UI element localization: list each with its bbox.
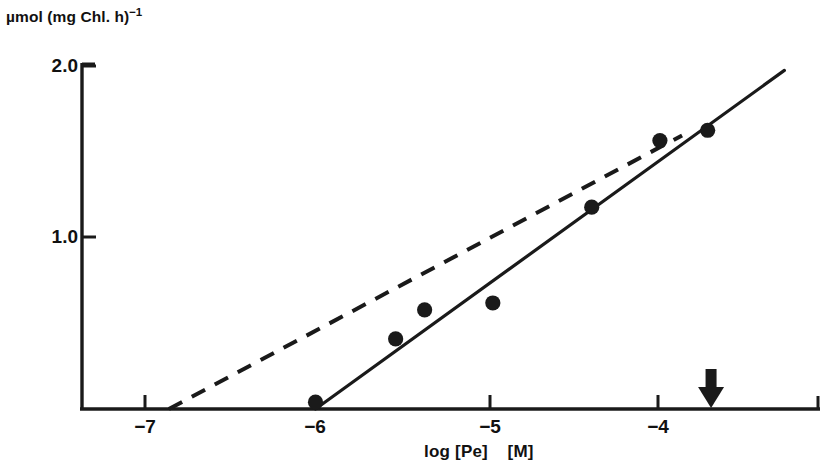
- y-tick-marks: [82, 66, 96, 237]
- axes-group: [80, 63, 820, 409]
- arrow-head: [698, 387, 724, 408]
- annotation-group: [698, 369, 724, 408]
- plot-area: [0, 0, 830, 470]
- dashed-reference-line: [169, 135, 682, 409]
- data-point: [308, 395, 323, 410]
- x-tick-marks: [145, 395, 658, 409]
- solid-fit-line: [316, 70, 785, 409]
- figure-panel: µmol (mg Chl. h)−1 2.0 1.0 −7 −6 −5 −4 l…: [0, 0, 830, 470]
- data-point: [485, 295, 500, 310]
- down-arrow-marker: [698, 369, 724, 408]
- data-series-group: [169, 70, 785, 409]
- arrow-shaft: [706, 369, 717, 388]
- data-point: [700, 123, 715, 138]
- data-point: [652, 133, 667, 148]
- data-point: [584, 200, 599, 215]
- data-point: [388, 331, 403, 346]
- data-point: [417, 302, 432, 317]
